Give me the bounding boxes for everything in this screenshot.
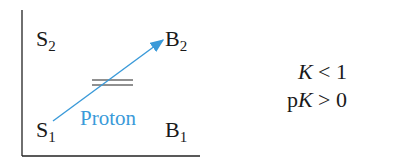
species-b2: B2 bbox=[165, 28, 187, 54]
condition-pk: pK > 0 bbox=[287, 86, 347, 115]
condition-k: K < 1 bbox=[298, 58, 347, 87]
species-s1: S1 bbox=[36, 119, 56, 145]
proton-label: Proton bbox=[80, 108, 136, 129]
species-s2: S2 bbox=[36, 28, 56, 54]
species-b1: B1 bbox=[165, 119, 187, 145]
